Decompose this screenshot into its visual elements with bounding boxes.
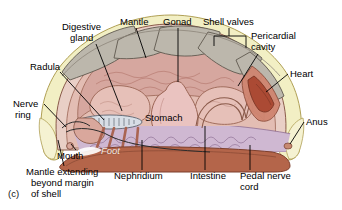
anus-organ — [284, 143, 292, 149]
label-nerve-ring: Nerve — [13, 99, 38, 110]
label-pericardial-cavity: Pericardial — [251, 31, 296, 42]
label-stomach: Stomach — [145, 113, 183, 124]
figure-number: (c) — [8, 189, 19, 200]
label-shell-valves: Shell valves — [203, 17, 254, 28]
label-pedal-nerve-cord: Pedal nerve — [240, 171, 291, 182]
label-nephridium: Nephridium — [114, 171, 163, 182]
label-mantle-extending-line3: of shell — [31, 189, 61, 200]
label-nerve-ring-line2: ring — [15, 110, 31, 121]
label-intestine: Intestine — [190, 171, 226, 182]
label-digestive-gland-line2: gland — [70, 33, 93, 44]
label-pericardial-cavity-line2: cavity — [251, 42, 275, 53]
label-pedal-nerve-cord-line2: cord — [240, 182, 258, 193]
label-digestive-gland: Digestive — [62, 22, 101, 33]
label-mouth: Mouth — [57, 151, 83, 162]
label-mantle-extending-line2: beyond margin — [31, 178, 94, 189]
label-mantle: Mantle — [120, 17, 149, 28]
label-heart: Heart — [290, 69, 313, 80]
label-radula: Radula — [30, 62, 60, 73]
label-mantle-extending: Mantle extending — [26, 167, 98, 178]
label-anus: Anus — [306, 117, 328, 128]
label-foot: Foot — [101, 146, 120, 157]
chiton-anatomy-figure: Digestive gland Mantle Gonad Shell valve… — [0, 0, 342, 210]
label-gonad: Gonad — [163, 17, 192, 28]
